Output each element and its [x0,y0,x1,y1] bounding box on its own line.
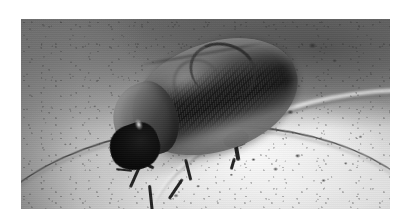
page-canvas [0,0,409,221]
photograph [21,19,390,209]
photo-softening [21,19,390,209]
